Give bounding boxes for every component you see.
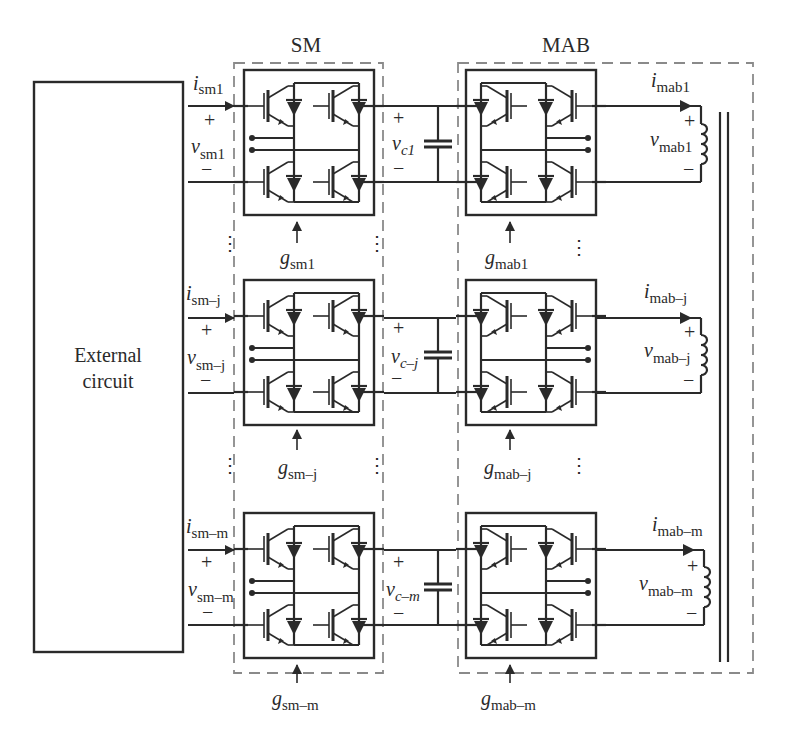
label-i-sm1: ism1 bbox=[193, 72, 224, 97]
module-row-1 bbox=[188, 70, 707, 243]
label-g-mab-m: gmab–m bbox=[481, 687, 536, 713]
label-minus-mab-m: − bbox=[686, 602, 697, 624]
label-minus-sm1: − bbox=[201, 158, 212, 180]
mab-group-border bbox=[458, 63, 753, 673]
vdots-sm-left-1: ⋮ bbox=[220, 232, 240, 254]
label-minus-c1: − bbox=[393, 157, 404, 179]
label-g-mab1: gmab1 bbox=[485, 246, 528, 272]
external-circuit-block: External circuit bbox=[34, 82, 183, 652]
label-g-sm1: gsm1 bbox=[280, 246, 315, 272]
label-plus-mab-j: + bbox=[684, 321, 695, 343]
mab-module-j bbox=[456, 280, 606, 425]
label-i-mab1: imab1 bbox=[651, 69, 690, 95]
label-minus-sm-m: − bbox=[202, 601, 213, 623]
label-plus-c-m: + bbox=[393, 551, 404, 573]
sm-module-j bbox=[234, 280, 384, 425]
label-minus-c-j: − bbox=[391, 367, 402, 389]
vdots-sm-right-2: ⋮ bbox=[367, 454, 387, 476]
label-g-mab-j: gmab–j bbox=[484, 456, 532, 482]
label-plus-sm-m: + bbox=[201, 551, 212, 573]
external-circuit-label-line2: circuit bbox=[82, 370, 134, 392]
vdots-mab-1: ⋮ bbox=[569, 236, 589, 258]
vdots-mab-2: ⋮ bbox=[569, 454, 589, 476]
mab-group-title: MAB bbox=[542, 33, 590, 57]
label-plus-sm1: + bbox=[204, 109, 215, 131]
module-row-m bbox=[188, 513, 710, 683]
vdots-sm-left-2: ⋮ bbox=[220, 454, 240, 476]
mab-module-m bbox=[456, 513, 606, 658]
sm-module-m bbox=[234, 513, 384, 658]
label-i-sm-j: ism–j bbox=[186, 282, 221, 308]
label-minus-mab-j: − bbox=[683, 369, 694, 391]
label-minus-sm-j: − bbox=[200, 369, 211, 391]
label-plus-c-j: + bbox=[393, 317, 404, 339]
label-plus-mab1: + bbox=[684, 110, 695, 132]
sm-module-1 bbox=[234, 70, 384, 215]
label-v-c1: vc1 bbox=[392, 132, 415, 158]
label-v-c-m: vc–m bbox=[386, 578, 420, 604]
label-g-sm-j: gsm–j bbox=[278, 456, 317, 482]
label-g-sm-m: gsm–m bbox=[272, 687, 319, 713]
label-i-mab-m: imab–m bbox=[652, 513, 703, 539]
label-i-sm-m: ism–m bbox=[186, 515, 229, 541]
sm-group-title: SM bbox=[291, 33, 322, 57]
vdots-sm-right-1: ⋮ bbox=[367, 232, 387, 254]
label-plus-c1: + bbox=[393, 107, 404, 129]
label-v-mab-j: vmab–j bbox=[644, 339, 690, 366]
label-plus-sm-j: + bbox=[201, 319, 212, 341]
label-v-mab1: vmab1 bbox=[650, 128, 692, 155]
label-i-mab-j: imab–j bbox=[644, 280, 687, 306]
label-minus-c-m: − bbox=[393, 602, 404, 624]
mmc-mab-circuit-diagram: External circuit SM MAB bbox=[0, 0, 786, 737]
external-circuit-label-line1: External bbox=[74, 344, 142, 366]
mab-module-1 bbox=[456, 70, 606, 215]
label-plus-mab-m: + bbox=[687, 555, 698, 577]
module-row-j bbox=[188, 280, 707, 450]
label-minus-mab1: − bbox=[683, 158, 694, 180]
label-v-mab-m: vmab–m bbox=[639, 572, 693, 599]
